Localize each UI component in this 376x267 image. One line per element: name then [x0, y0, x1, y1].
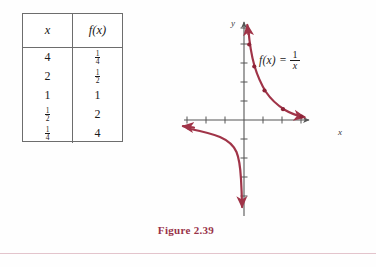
table-header-row: x f(x) [23, 14, 122, 48]
cell-fx-value: 4 [95, 126, 101, 140]
curve-branch-quadrant-3 [188, 129, 242, 208]
x-axis-label: x [337, 127, 342, 137]
cell-fx: 1 [73, 86, 123, 105]
fraction: 1 4 [45, 126, 51, 142]
value-table: x f(x) 4 1 4 2 [22, 13, 123, 142]
cell-x: 1 2 [23, 105, 73, 124]
data-point [262, 88, 266, 92]
cell-fx: 1 2 [73, 67, 123, 86]
fraction-numerator: 1 [45, 126, 51, 134]
fraction-numerator: 1 [45, 107, 51, 115]
equation-denominator: x [290, 60, 299, 72]
table-row: 4 1 4 [23, 48, 122, 68]
value-table-grid: x f(x) 4 1 4 2 [23, 14, 122, 143]
cell-fx-value: 2 [95, 107, 101, 121]
fraction-numerator: 1 [95, 69, 101, 77]
data-point [252, 64, 256, 68]
equation-fraction: 1x [290, 50, 299, 72]
column-header-fx: f(x) [73, 14, 123, 48]
cell-x: 1 [23, 86, 73, 105]
fraction-denominator: 4 [95, 57, 101, 66]
cell-fx: 1 4 [73, 48, 123, 68]
data-point [299, 115, 303, 119]
equation-equals: = [280, 54, 287, 66]
page-divider-rule [0, 253, 376, 254]
cell-x-value: 2 [45, 69, 51, 83]
hyperbola-graph: x y [176, 4, 372, 226]
table-row: 1 2 2 [23, 105, 122, 124]
fraction-denominator: 2 [45, 114, 51, 123]
fraction: 1 2 [95, 69, 101, 85]
equation-lhs: f(x) [259, 54, 276, 66]
fraction-denominator: 2 [95, 76, 101, 85]
table-row: 1 4 4 [23, 124, 122, 143]
fraction-numerator: 1 [95, 50, 101, 58]
fraction: 1 4 [95, 50, 101, 66]
cell-x: 1 4 [23, 124, 73, 143]
fraction-denominator: 4 [45, 133, 51, 142]
figure-caption: Figure 2.39 [0, 224, 372, 236]
cell-x: 4 [23, 48, 73, 68]
data-point [281, 107, 285, 111]
cell-fx: 2 [73, 105, 123, 124]
table-row: 1 1 [23, 86, 122, 105]
cell-x-value: 1 [45, 88, 51, 102]
fraction: 1 2 [45, 107, 51, 123]
curve-branch-quadrant-1 [248, 29, 304, 117]
cell-fx-value: 1 [95, 88, 101, 102]
data-point [247, 42, 251, 46]
y-axis-label: y [230, 18, 235, 28]
table-row: 2 1 2 [23, 67, 122, 86]
column-header-x: x [23, 14, 73, 48]
cell-x: 2 [23, 67, 73, 86]
graph-svg: x y [176, 4, 372, 226]
curve-arrow-left [183, 126, 194, 127]
equation-numerator: 1 [290, 50, 299, 61]
cell-fx: 4 [73, 124, 123, 143]
cell-x-value: 4 [45, 50, 51, 64]
value-table-head: x f(x) [23, 14, 122, 48]
function-equation-label: f(x)=1x [259, 50, 300, 72]
value-table-body: 4 1 4 2 1 2 [23, 48, 122, 144]
curve-arrow-up [247, 25, 248, 34]
